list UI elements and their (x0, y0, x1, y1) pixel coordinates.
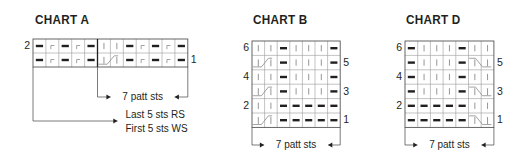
knitting-charts: 217 patt stsLast 5 sts RSFirst 5 sts WS6… (0, 0, 527, 156)
row-number: 1 (191, 53, 197, 65)
row-number: 3 (497, 85, 503, 97)
twist-symbol (77, 60, 81, 64)
row-number: 6 (243, 41, 249, 53)
row-number: 2 (396, 99, 402, 111)
pattern-repeat-label: 7 patt sts (122, 91, 163, 102)
row-number: 1 (497, 113, 503, 125)
row-number: 1 (343, 113, 349, 125)
twist-symbol (77, 46, 81, 50)
arrow-icon (481, 143, 485, 148)
arrow-icon (328, 143, 332, 148)
row-number: 5 (343, 56, 349, 68)
edge-stitches-label: First 5 sts WS (126, 123, 189, 134)
twist-symbol (167, 60, 171, 64)
arrow-icon (413, 143, 417, 148)
row-number: 2 (243, 99, 249, 111)
row-number: 2 (24, 39, 30, 51)
edge-stitches-label: Last 5 sts RS (126, 109, 186, 120)
twist-symbol (51, 46, 55, 50)
row-number: 4 (243, 70, 249, 82)
row-number: 3 (343, 85, 349, 97)
row-number: 5 (497, 56, 503, 68)
chart-a: 217 patt stsLast 5 sts RSFirst 5 sts WS (24, 39, 197, 134)
pattern-repeat-label: 7 patt sts (429, 139, 470, 150)
arrow-icon (175, 95, 179, 100)
chart-b: 6543217 patt sts (243, 41, 349, 150)
pattern-repeat-label: 7 patt sts (276, 139, 317, 150)
twist-symbol (167, 46, 171, 50)
twist-symbol (141, 60, 145, 64)
row-number: 4 (396, 70, 402, 82)
twist-symbol (51, 60, 55, 64)
arrow-icon (260, 143, 264, 148)
arrow-icon (113, 119, 117, 124)
arrow-icon (106, 95, 110, 100)
twist-symbol (141, 46, 145, 50)
row-number: 6 (396, 41, 402, 53)
chart-d: 6543217 patt sts (396, 41, 503, 150)
